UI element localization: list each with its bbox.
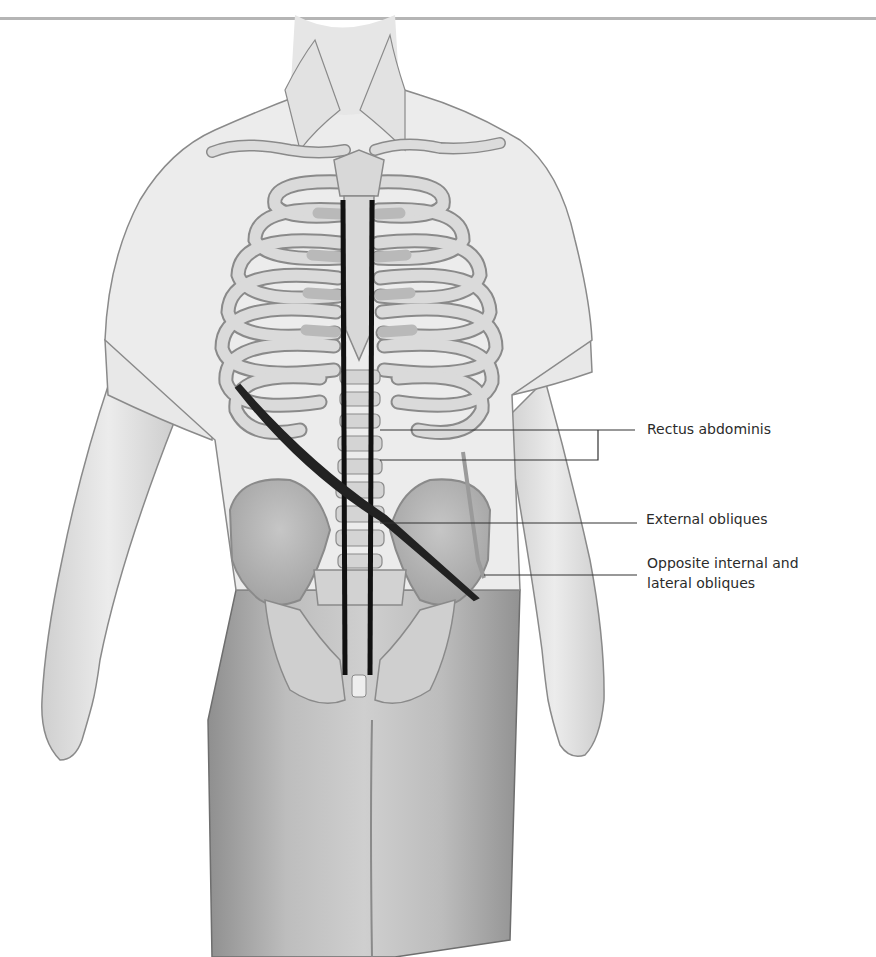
label-rectus-abdominis: Rectus abdominis [647, 419, 771, 439]
rectus-abdominis-left-line [343, 200, 345, 675]
label-opposite-internal-lateral-obliques: Opposite internal and lateral obliques [647, 553, 799, 593]
rectus-abdominis-right-line [370, 200, 372, 675]
label-opposite-line1: Opposite internal and [647, 553, 799, 573]
label-opposite-line2: lateral obliques [647, 573, 799, 593]
label-external-obliques: External obliques [646, 509, 767, 529]
right-arm [505, 330, 604, 756]
label-external-obliques-text: External obliques [646, 511, 767, 527]
label-rectus-abdominis-text: Rectus abdominis [647, 421, 771, 437]
legs [208, 590, 520, 957]
anatomy-illustration [0, 0, 876, 957]
